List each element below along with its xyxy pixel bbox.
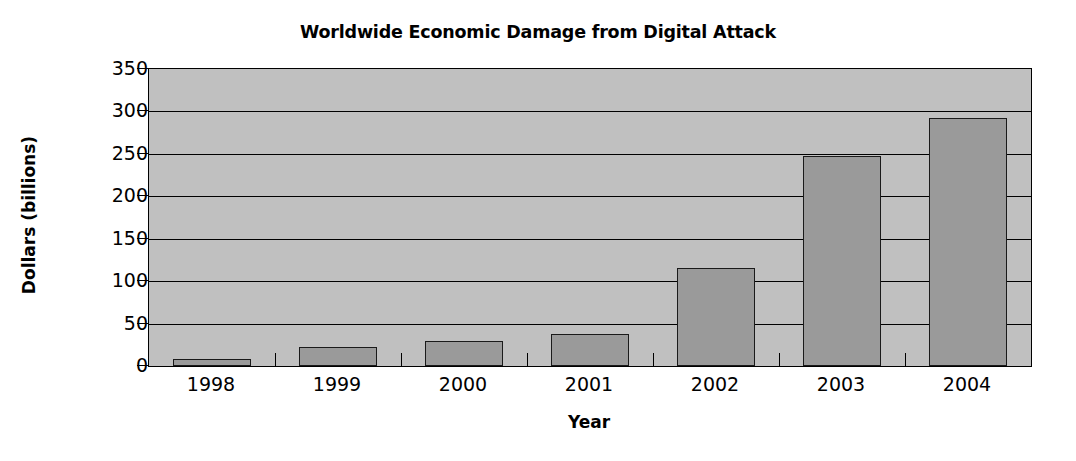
x-tick-label: 2001 bbox=[565, 373, 613, 395]
y-tick-mark bbox=[137, 280, 148, 281]
y-axis-tick-labels: 050100150200250300350 bbox=[80, 68, 148, 365]
bar-1999 bbox=[299, 347, 377, 366]
chart-title: Worldwide Economic Damage from Digital A… bbox=[0, 22, 1076, 42]
x-axis-title: Year bbox=[148, 412, 1030, 432]
bar-1998 bbox=[173, 359, 251, 366]
x-tick-label: 2004 bbox=[943, 373, 991, 395]
gridline bbox=[149, 196, 1031, 197]
x-tick-separator bbox=[527, 353, 528, 366]
bar-2000 bbox=[425, 341, 503, 366]
x-tick-separator bbox=[779, 353, 780, 366]
x-tick-label: 1998 bbox=[187, 373, 235, 395]
bar-chart-figure: Worldwide Economic Damage from Digital A… bbox=[0, 0, 1076, 461]
bar-2001 bbox=[551, 334, 629, 366]
y-tick-mark bbox=[137, 323, 148, 324]
x-tick-separator bbox=[905, 353, 906, 366]
x-tick-label: 2000 bbox=[439, 373, 487, 395]
x-tick-separator bbox=[401, 353, 402, 366]
gridline bbox=[149, 281, 1031, 282]
y-tick-mark bbox=[137, 68, 148, 69]
bar-2002 bbox=[677, 268, 755, 366]
y-tick-mark bbox=[137, 153, 148, 154]
y-tick-mark bbox=[137, 365, 148, 366]
gridline bbox=[149, 154, 1031, 155]
gridline bbox=[149, 111, 1031, 112]
bar-2004 bbox=[929, 118, 1007, 366]
x-tick-label: 2002 bbox=[691, 373, 739, 395]
y-tick-mark bbox=[137, 238, 148, 239]
x-tick-separator bbox=[653, 353, 654, 366]
x-tick-separator bbox=[275, 353, 276, 366]
bar-2003 bbox=[803, 156, 881, 366]
plot-area bbox=[148, 68, 1032, 367]
y-tick-mark bbox=[137, 110, 148, 111]
x-tick-label: 1999 bbox=[313, 373, 361, 395]
y-tick-mark bbox=[137, 195, 148, 196]
gridline bbox=[149, 324, 1031, 325]
y-axis-title: Dollars (billions) bbox=[19, 130, 39, 300]
gridline bbox=[149, 239, 1031, 240]
x-axis-tick-labels: 1998199920002001200220032004 bbox=[148, 373, 1030, 403]
x-tick-label: 2003 bbox=[817, 373, 865, 395]
